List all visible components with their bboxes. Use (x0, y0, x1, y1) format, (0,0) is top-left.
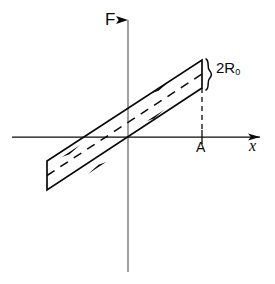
vertical-axis-label: F (105, 11, 115, 28)
hysteresis-loop-figure: F x A 2R0 (0, 0, 275, 284)
hysteresis-loop-parallelogram (47, 60, 202, 190)
loop-direction-arrow-lower-left (88, 162, 106, 174)
figure-canvas (0, 0, 275, 284)
loop-center-dashed-line (47, 74, 202, 176)
point-label-A: A (196, 140, 205, 154)
loop-width-brace (206, 59, 211, 90)
loop-width-label: 2R0 (216, 60, 240, 75)
loop-width-label-subscript: 0 (235, 67, 240, 77)
loop-width-label-main: 2R (216, 59, 235, 76)
horizontal-axis-label: x (249, 138, 256, 154)
